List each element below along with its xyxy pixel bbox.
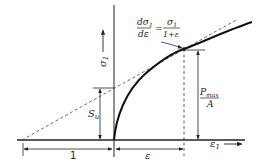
dim-one-label: 1 <box>70 150 76 161</box>
considere-equation: dσ1 dε = σ1 1+ε <box>137 17 180 39</box>
svg-text:=: = <box>155 23 163 33</box>
diagram-canvas: σ1 ε1 dσ1 dε = σ1 1+ε Su Pmax A 1 ε <box>0 0 273 167</box>
svg-text:dσ1: dσ1 <box>137 17 153 28</box>
svg-text:1+ε: 1+ε <box>163 30 179 39</box>
equation-leader-arrow <box>161 42 182 48</box>
true-stress-strain-curve <box>114 22 252 140</box>
pmax-over-a-label: Pmax A <box>199 87 219 109</box>
tangent-line-dashed <box>22 19 238 140</box>
stress-axis-label: σ1 <box>97 56 110 67</box>
svg-text:σ1: σ1 <box>97 56 110 67</box>
true-stress-strain-diagram: σ1 ε1 dσ1 dε = σ1 1+ε Su Pmax A 1 ε <box>0 0 273 167</box>
svg-text:dε: dε <box>138 29 149 39</box>
dim-eps-label: ε <box>145 150 150 161</box>
svg-text:A: A <box>206 99 214 109</box>
su-label: Su <box>88 108 100 121</box>
svg-text:Pmax: Pmax <box>199 87 219 98</box>
svg-text:σ1: σ1 <box>167 17 177 28</box>
